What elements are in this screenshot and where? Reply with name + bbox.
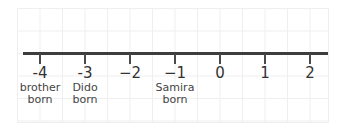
event-label-line2: born <box>145 94 205 106</box>
tick-label: 1 <box>245 64 285 82</box>
tick-label: -3 <box>65 64 105 82</box>
tick-mark <box>219 54 221 64</box>
tick-mark <box>39 54 41 64</box>
tick-mark <box>84 54 86 64</box>
tick-mark <box>129 54 131 64</box>
tick-label: 0 <box>200 64 240 82</box>
tick-mark <box>264 54 266 64</box>
tick-mark <box>309 54 311 64</box>
tick-label: −1 <box>155 64 195 82</box>
tick-mark <box>174 54 176 64</box>
tick-label: -4 <box>20 64 60 82</box>
event-label-line2: born <box>55 94 115 106</box>
event-label: Samiraborn <box>145 82 205 106</box>
tick-label: 2 <box>290 64 330 82</box>
event-label: Didoborn <box>55 82 115 106</box>
tick-label: −2 <box>110 64 150 82</box>
